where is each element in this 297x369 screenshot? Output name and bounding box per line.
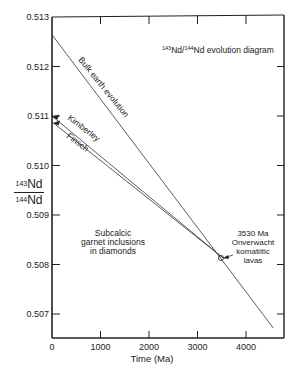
pointer-arrow-icon: [224, 255, 233, 259]
x-tick-label: 2000: [139, 342, 159, 352]
svg-text:lavas: lavas: [244, 256, 263, 265]
y-tick-labels: 0.5070.5080.5090.5100.5110.5120.513: [26, 12, 49, 319]
subcalcic-annotation: Subcalcic garnet inclusions in diamonds: [81, 228, 145, 256]
y-tick-label: 0.512: [26, 62, 49, 72]
x-tick-labels: 01000200030004000: [49, 342, 256, 352]
svg-text:3530 Ma: 3530 Ma: [237, 229, 269, 238]
x-tick-label: 4000: [236, 342, 256, 352]
bulk-earth-label: Bulk earth evolution: [76, 55, 131, 120]
series-lines: [52, 35, 273, 328]
y-tick-label: 0.513: [26, 12, 49, 22]
chart-title: 143Nd/144Nd evolution diagram: [162, 45, 274, 55]
x-tick-label: 3000: [187, 342, 207, 352]
x-tick-label: 1000: [90, 342, 110, 352]
svg-text:komatiitic: komatiitic: [236, 247, 269, 256]
y-label-den: Nd: [27, 193, 42, 207]
y-label-den-mass: 144: [15, 196, 27, 203]
svg-text:in diamonds: in diamonds: [90, 246, 136, 256]
y-tick-label: 0.510: [26, 161, 49, 171]
nd-evolution-chart: 0.5070.5080.5090.5100.5110.5120.513 0100…: [0, 0, 297, 369]
y-tick-label: 0.507: [26, 309, 49, 319]
y-label-num: Nd: [27, 177, 42, 191]
y-label-num-mass: 143: [15, 180, 27, 187]
onverwacht-annotation: 3530 Ma Onverwacht komatiitic lavas: [232, 229, 275, 265]
y-tick-label: 0.511: [27, 111, 49, 121]
x-axis-label: Time (Ma): [131, 353, 174, 364]
y-tick-label: 0.509: [26, 210, 49, 220]
finsch-arrow-icon: [53, 121, 60, 126]
x-tick-label: 0: [49, 342, 54, 352]
y-tick-label: 0.508: [26, 260, 49, 270]
bulk-earth-line: [52, 35, 273, 328]
y-axis-label: 143Nd 144Nd: [14, 178, 44, 207]
svg-text:Onverwacht: Onverwacht: [232, 238, 275, 247]
